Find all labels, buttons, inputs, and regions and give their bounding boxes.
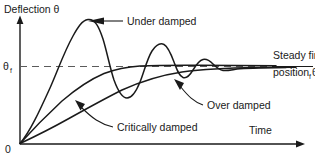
under-damped-label: Under damped (127, 15, 197, 27)
over-damped-label: Over damped (207, 99, 271, 111)
y-axis-arrowhead (17, 16, 24, 25)
steady-final-line1: Steady final (273, 49, 315, 61)
theta-f-axis-label: θ f (3, 60, 12, 74)
over-damped-annotation-leader (174, 79, 203, 105)
y-axis-label: Deflection θ (4, 3, 60, 15)
x-axis-arrowhead (296, 141, 305, 148)
damping-response-figure: Deflection θ Time 0 θ f Under damped Cri… (0, 0, 315, 157)
origin-label: 0 (5, 143, 11, 155)
steady-final-line2-subscript: f (309, 73, 311, 80)
steady-final-position-label: Steady final position θ f (273, 49, 315, 80)
x-axis-label: Time (249, 124, 272, 136)
under-damped-annotation-leader (88, 18, 123, 25)
critically-damped-label: Critically damped (117, 121, 198, 133)
theta-f-subscript: f (10, 67, 12, 74)
theta-f-symbol: θ (3, 60, 9, 72)
